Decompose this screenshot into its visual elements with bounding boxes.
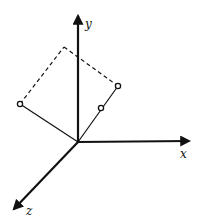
- z-axis-label: z: [25, 204, 33, 218]
- dashed-left-edge: [20, 47, 64, 104]
- middle-point-marker: [98, 105, 103, 110]
- x-axis: [78, 141, 189, 142]
- dashed-top-edge: [64, 47, 118, 86]
- left-point-marker: [17, 101, 22, 106]
- x-axis-label: x: [180, 147, 187, 161]
- y-axis-label: y: [84, 17, 92, 31]
- upper-right-point-marker: [115, 83, 120, 88]
- segment-origin-to-left-point: [20, 104, 78, 142]
- coordinate-diagram: y x z: [0, 0, 201, 222]
- segment-origin-to-right-point: [78, 86, 118, 142]
- z-axis: [14, 142, 78, 209]
